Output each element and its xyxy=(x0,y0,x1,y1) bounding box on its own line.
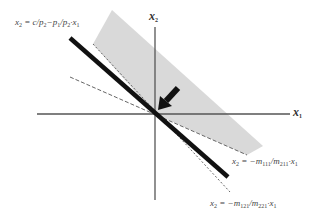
eq-sub: 1 xyxy=(76,22,79,28)
x1-axis-label: x1 xyxy=(293,106,302,119)
eq-part: /m xyxy=(271,156,280,166)
eq-sub: 221 xyxy=(258,203,267,209)
eq-sub: 111 xyxy=(262,161,271,167)
eq-part: = −m xyxy=(217,198,240,208)
eq-part: /m xyxy=(249,198,258,208)
m121-line-equation: x2 = −m121/m221·x1 xyxy=(210,199,276,209)
budget-line-equation: x2 = c/p2−p1/p2·x1 xyxy=(15,18,79,28)
eq-part: = c/p xyxy=(22,17,44,27)
eq-sub: 1 xyxy=(273,203,276,209)
eq-part: = −m xyxy=(239,156,262,166)
cone-diagram xyxy=(0,0,320,221)
eq-sub: 1 xyxy=(295,161,298,167)
m111-line-equation: x2 = −m111/m211·x1 xyxy=(232,157,298,167)
eq-part: −p xyxy=(47,17,58,27)
x2-axis-label: x2 xyxy=(149,10,158,23)
x1-label-sub: 1 xyxy=(299,113,302,119)
eq-sub: 121 xyxy=(240,203,249,209)
x2-label-sub: 2 xyxy=(155,17,158,23)
eq-sub: 211 xyxy=(280,161,289,167)
